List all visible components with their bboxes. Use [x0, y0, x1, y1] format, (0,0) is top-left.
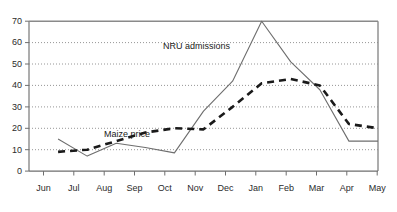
x-tick-label-jan: Jan	[239, 184, 273, 193]
x-tick-label-feb: Feb	[269, 184, 303, 193]
x-tick-label-jun: Jun	[27, 184, 61, 193]
y-tick-label-50: 50	[0, 60, 22, 69]
y-tick-label-40: 40	[0, 81, 22, 90]
series-annotation-maize-price: Maize price	[104, 130, 150, 139]
y-tick-label-30: 30	[0, 103, 22, 112]
x-tick-label-oct: Oct	[148, 184, 182, 193]
series-annotation-nru-admissions: NRU admissions	[163, 42, 230, 51]
x-tick-label-mar: Mar	[300, 184, 334, 193]
chart-plot-area	[0, 0, 397, 212]
x-tick-label-jul: Jul	[57, 184, 91, 193]
gridlines	[29, 43, 378, 150]
y-tick-label-10: 10	[0, 146, 22, 155]
x-tick-label-may: May	[360, 184, 394, 193]
y-tick-label-60: 60	[0, 38, 22, 47]
y-tick-label-20: 20	[0, 124, 22, 133]
x-tick-label-sep: Sep	[118, 184, 152, 193]
x-tick-label-apr: Apr	[330, 184, 364, 193]
x-tick-label-dec: Dec	[209, 184, 243, 193]
y-tick-label-0: 0	[0, 167, 22, 176]
x-tick-label-nov: Nov	[178, 184, 212, 193]
chart-container: 70 60 50 40 30 20 10 0 Jun Jul Aug Sep O…	[0, 0, 397, 212]
y-tick-label-70: 70	[0, 17, 22, 26]
series-line-maize-price	[58, 79, 378, 152]
x-tick-label-aug: Aug	[87, 184, 121, 193]
x-axis-ticks	[44, 171, 378, 175]
